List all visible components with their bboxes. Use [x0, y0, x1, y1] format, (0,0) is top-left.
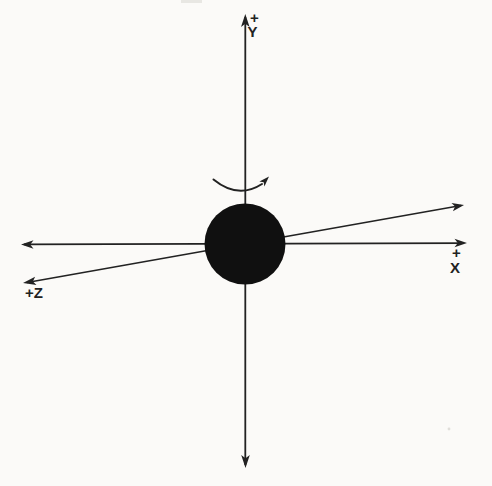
axes-figure: + Y + X +Z: [0, 0, 492, 486]
z-axis-label: +Z: [25, 284, 43, 301]
origin-sphere: [205, 204, 286, 285]
y-axis-label: Y: [248, 23, 258, 40]
diagram-canvas: + Y + X +Z: [0, 0, 492, 486]
scan-artifact: [181, 0, 202, 3]
scan-artifact: [448, 428, 451, 431]
x-axis-label: X: [450, 259, 460, 276]
